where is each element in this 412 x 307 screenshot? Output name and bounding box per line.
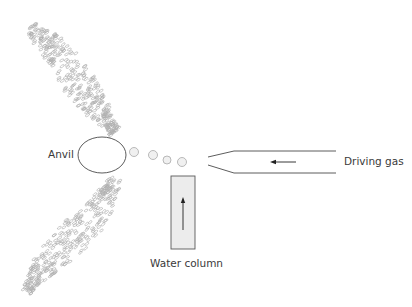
spray-particle [103,218,108,222]
spray-particle [94,81,99,86]
spray-particle [53,252,58,257]
spray-particle [97,192,102,197]
spray-particle [48,256,53,260]
spray-particle [36,257,41,261]
droplets [130,148,187,167]
spray-particle [76,92,81,96]
spray-particle [79,91,84,95]
spray-particle [100,124,105,128]
spray-particle [65,255,70,259]
spray-particle [80,102,85,106]
spray-particle [62,225,67,229]
spray-particle [83,246,88,251]
spray-particle [69,52,74,56]
spray-particle [92,109,97,113]
spray-particle [63,221,68,225]
water-column-label: Water column [150,257,223,269]
spray-particle [85,235,90,240]
spray-particle [106,103,111,107]
lower-spray-particles [21,176,122,296]
spray-particle [68,76,73,80]
spray-particle [93,192,98,196]
spray-particle [71,69,75,73]
spray-particle [62,251,67,255]
droplet [163,156,171,164]
spray-particle [108,179,113,183]
anvil-shape [78,137,126,173]
spray-particle [84,242,89,246]
spray-particle [73,99,78,103]
spray-particle [56,72,60,75]
driving-gas-label: Driving gas [344,155,404,167]
spray-particle [80,243,85,247]
spray-particle [43,278,48,282]
spray-particle [87,81,91,85]
spray-particle [84,222,89,227]
spray-particle [44,35,49,39]
spray-particle [86,238,90,242]
spray-particle [32,257,37,261]
spray-particle [84,77,89,82]
anvil-label: Anvil [48,148,74,160]
spray-particle [76,78,81,82]
spray-particle [96,118,101,122]
spray-particle [44,269,49,273]
spray-particle [58,37,63,41]
spray-particle [65,259,70,263]
spray-particle [61,255,66,259]
spray-particle [54,34,59,38]
spray-particle [60,64,65,68]
spray-particle [64,53,69,57]
spray-particle [52,234,56,238]
spray-particle [54,256,59,260]
spray-particle [46,266,51,270]
spray-particle [32,268,37,272]
spray-particle [88,220,92,224]
spray-particle [41,52,46,56]
spray-particle [73,51,78,55]
spray-particle [80,221,85,225]
droplet [130,148,139,157]
spray-particle [99,229,103,233]
spray-particle [32,41,37,45]
spray-particle [101,222,106,226]
spray-particle [29,292,33,296]
spray-particle [51,267,56,271]
spray-particle [93,197,98,201]
spray-particle [78,209,83,213]
spray-particle [70,239,75,243]
spray-particle [43,37,48,41]
spray-particle [109,210,114,214]
spray-particle [98,207,103,211]
droplet [178,158,187,167]
gas-flow-arrow-icon [270,160,296,164]
spray-diagram: Anvil Driving gas Water column [0,0,412,307]
spray-particle [95,89,100,94]
spray-particle [84,209,88,213]
spray-particle [51,44,56,48]
spray-particle [67,223,71,227]
spray-particle [74,242,79,246]
spray-particle [89,207,94,211]
spray-particle [84,234,88,238]
spray-particle [117,179,122,183]
spray-particle [41,263,46,267]
upper-spray-particles [27,22,121,138]
spray-particle [82,64,87,68]
spray-particle [113,197,118,201]
spray-particle [47,251,52,255]
spray-particle [39,48,44,51]
spray-particle [50,64,55,68]
spray-particle [76,104,81,108]
spray-particle [66,65,71,69]
spray-particle [59,58,64,62]
spray-particle [65,44,69,47]
droplet [149,151,158,160]
spray-particle [71,83,76,87]
spray-particle [73,216,77,220]
spray-particle [84,227,89,232]
spray-particle [76,223,81,227]
spray-particle [41,244,45,248]
spray-particle [74,231,79,235]
spray-particle [35,283,40,288]
